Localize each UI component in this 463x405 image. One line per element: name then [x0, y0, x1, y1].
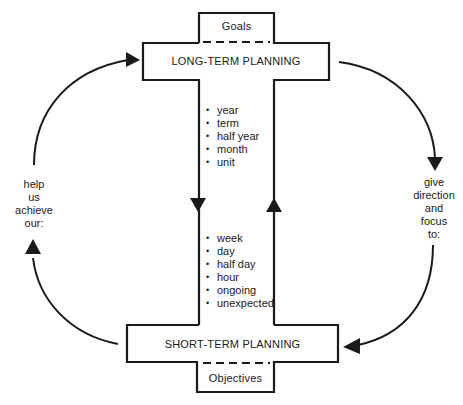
label-line: give: [404, 176, 463, 189]
left-lower-curve-arrow: [33, 258, 118, 344]
label-line: focus: [404, 215, 463, 228]
list-item: ongoing: [206, 284, 274, 297]
right-upper-curve-arrow: [339, 62, 435, 158]
label-line: our:: [4, 217, 64, 230]
up-arrow-icon: [266, 198, 282, 212]
left-cycle-label: help us achieve our:: [4, 178, 64, 230]
label-line: help: [4, 178, 64, 191]
list-item: half year: [206, 130, 259, 143]
list-item: year: [206, 104, 259, 117]
left-upper-curve-arrow: [34, 60, 128, 165]
list-item: week: [206, 232, 274, 245]
list-item: unexpected: [206, 297, 274, 310]
short-term-timeframes-list: week day half day hour ongoing unexpecte…: [206, 232, 274, 310]
short-term-planning-label: SHORT-TERM PLANNING: [127, 338, 338, 350]
list-item: month: [206, 143, 259, 156]
list-item: unit: [206, 156, 259, 169]
left-upper-arrowhead-icon: [126, 52, 140, 67]
list-item: half day: [206, 258, 274, 271]
label-line: achieve: [4, 204, 64, 217]
right-lower-arrowhead-icon: [343, 338, 360, 354]
label-line: to:: [404, 228, 463, 241]
list-item: day: [206, 245, 274, 258]
label-line: direction: [404, 189, 463, 202]
long-term-planning-label: LONG-TERM PLANNING: [143, 55, 329, 67]
goals-label: Goals: [199, 20, 274, 32]
right-lower-curve-arrow: [358, 245, 433, 345]
objectives-label: Objectives: [197, 372, 274, 384]
label-line: us: [4, 191, 64, 204]
right-cycle-label: give direction and focus to:: [404, 176, 463, 241]
right-upper-arrowhead-icon: [427, 157, 443, 171]
list-item: hour: [206, 271, 274, 284]
down-arrow-icon: [190, 198, 206, 212]
long-term-timeframes-list: year term half year month unit: [206, 104, 259, 169]
list-item: term: [206, 117, 259, 130]
left-lower-arrowhead-icon: [25, 239, 41, 254]
label-line: and: [404, 202, 463, 215]
